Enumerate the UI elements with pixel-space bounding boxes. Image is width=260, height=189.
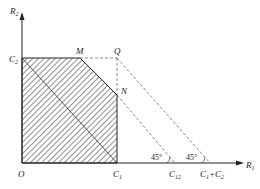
capacity-region-diagram: R2 R1 O C2 M Q N C1 C12 C1+C2 45° 45° [0, 0, 260, 189]
n-label: N [120, 86, 128, 96]
c12-label: C12 [169, 169, 181, 180]
c1-plus-c2-label: C1+C2 [200, 169, 224, 180]
angle-arc-c1c2 [202, 157, 205, 163]
x-axis-arrow-icon [236, 161, 244, 166]
c1-label: C1 [113, 169, 122, 180]
x-axis-label: R1 [245, 160, 255, 171]
y-axis-label: R2 [9, 6, 19, 17]
q-label: Q [114, 46, 121, 56]
angle-label-c1c2: 45° [186, 153, 197, 162]
origin-label: O [18, 169, 25, 179]
angle-label-c12: 45° [151, 153, 162, 162]
y-axis-arrow-icon [20, 12, 25, 20]
dashed-diag-c12 [117, 95, 175, 163]
m-label: M [75, 46, 84, 56]
dashed-diag-c1c2 [117, 58, 210, 163]
c2-label: C2 [9, 54, 18, 65]
angle-arc-c12 [167, 157, 170, 163]
